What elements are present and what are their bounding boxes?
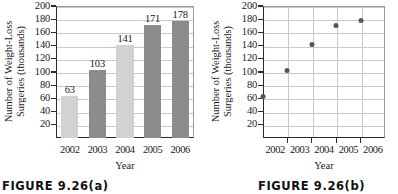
y-axis-tick: [51, 45, 56, 46]
x-axis-tick-label: 2006: [164, 144, 196, 155]
x-axis-tick-label: 2006: [357, 144, 389, 155]
y-axis-tick: [258, 85, 263, 86]
gridline-horizontal: [264, 47, 384, 48]
bar: [144, 25, 161, 138]
gridline-horizontal: [264, 33, 384, 34]
y-axis-tick: [51, 32, 56, 33]
x-axis-tick: [311, 138, 312, 143]
y-axis-tick-label: 80: [230, 80, 257, 90]
bar-value-label: 103: [77, 58, 117, 69]
y-axis-tick: [51, 98, 56, 99]
y-axis-tick-label: 60: [230, 93, 257, 103]
y-axis-tick: [258, 32, 263, 33]
y-axis-tick: [51, 111, 56, 112]
y-axis-tick-label: 180: [230, 14, 257, 24]
scatter-point: [334, 23, 339, 28]
gridline-horizontal: [264, 60, 384, 61]
y-axis-tick-label: 40: [230, 106, 257, 116]
gridline-horizontal: [264, 86, 384, 87]
y-axis-tick: [51, 124, 56, 125]
y-axis-tick: [258, 124, 263, 125]
y-axis-tick: [258, 111, 263, 112]
y-axis-tick: [258, 71, 263, 72]
scatter-point: [309, 42, 314, 47]
x-axis-tick: [360, 138, 361, 143]
y-axis-tick-label: 200: [23, 1, 50, 11]
figure-9-26-a: Number of Weight-LossSurgeries (thousand…: [0, 0, 199, 194]
scatter-point: [261, 94, 266, 99]
y-axis-title-line: Number of Weight-Loss: [210, 8, 222, 136]
y-axis-tick-label: 40: [23, 106, 50, 116]
y-axis-tick: [51, 19, 56, 20]
x-axis-title-b: Year: [263, 160, 385, 171]
bar-value-label: 178: [160, 9, 200, 20]
bar-value-label: 141: [105, 33, 145, 44]
bar: [61, 96, 78, 138]
gridline-vertical: [362, 7, 363, 137]
y-axis-tick-label: 160: [23, 27, 50, 37]
y-axis-tick-label: 100: [230, 67, 257, 77]
y-axis-tick: [51, 58, 56, 59]
gridline-horizontal: [264, 126, 384, 127]
x-axis-tick: [336, 138, 337, 143]
bar-value-label: 63: [50, 84, 90, 95]
y-axis-tick: [258, 58, 263, 59]
figure-caption-b: FIGURE 9.26(b): [258, 179, 365, 193]
figure-9-26-b: Number of Weight-LossSurgeries (thousand…: [199, 0, 398, 194]
y-axis-tick-label: 80: [23, 80, 50, 90]
y-axis-tick-label: 200: [230, 1, 257, 11]
y-axis-tick-label: 100: [23, 67, 50, 77]
y-axis-tick-label: 120: [23, 53, 50, 63]
gridline-horizontal: [264, 99, 384, 100]
y-axis-title-line: Number of Weight-Loss: [3, 8, 15, 136]
gridline-horizontal: [264, 113, 384, 114]
y-axis-tick: [51, 71, 56, 72]
scatter-point: [285, 68, 290, 73]
bar: [116, 45, 133, 138]
gridline-horizontal: [264, 7, 384, 8]
bar: [172, 21, 189, 138]
gridline-horizontal: [264, 20, 384, 21]
y-axis-tick: [258, 5, 263, 6]
gridline-vertical: [313, 7, 314, 137]
y-axis-tick-label: 160: [230, 27, 257, 37]
y-axis-tick-label: 60: [23, 93, 50, 103]
y-axis-tick-label: 140: [23, 40, 50, 50]
y-axis-tick-label: 20: [23, 119, 50, 129]
y-axis-tick-label: 20: [230, 119, 257, 129]
x-axis-title-a: Year: [56, 160, 194, 171]
scatter-point: [358, 18, 363, 23]
gridline-horizontal: [264, 73, 384, 74]
scatter-plot-plot-area: [263, 6, 385, 138]
y-axis-tick: [258, 19, 263, 20]
y-axis-tick-label: 140: [230, 40, 257, 50]
figure-caption-a: FIGURE 9.26(a): [2, 179, 109, 193]
bar: [89, 70, 106, 138]
x-axis-tick: [287, 138, 288, 143]
y-axis-tick-label: 180: [23, 14, 50, 24]
y-axis-tick: [51, 5, 56, 6]
y-axis-tick: [258, 45, 263, 46]
y-axis-tick-label: 120: [230, 53, 257, 63]
